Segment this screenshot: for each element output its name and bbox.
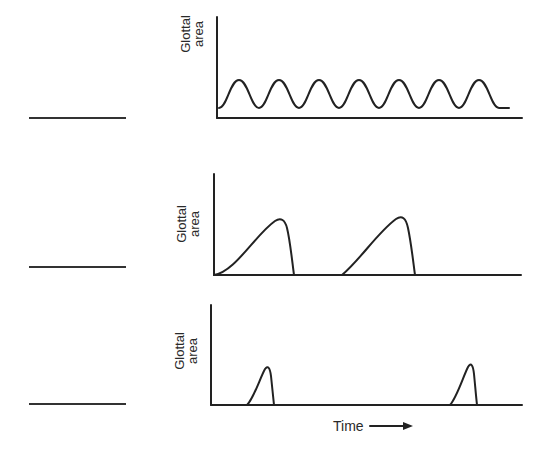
- x-axis-label: Time: [333, 418, 364, 434]
- panel-2-axes: [214, 174, 521, 275]
- panel-2-pulse-1: [214, 219, 294, 275]
- ylabel-line2: area: [188, 189, 201, 259]
- panel-1-ylabel: Glottal area: [179, 0, 207, 69]
- answer-blank-line-1[interactable]: [29, 117, 126, 119]
- panel-3-pulse-2: [450, 365, 477, 405]
- panel-1-axes: [217, 17, 522, 118]
- glottal-waveform-figure: [0, 0, 555, 455]
- panel-3-ylabel: Glottal area: [173, 316, 201, 386]
- panel-3-pulse-1: [247, 367, 274, 405]
- panel-2-pulse-2: [342, 217, 415, 275]
- panel-2-ylabel: Glottal area: [175, 189, 203, 259]
- panel-1-sinusoid-waveform: [219, 80, 509, 108]
- answer-blank-line-2[interactable]: [29, 266, 126, 268]
- answer-blank-line-3[interactable]: [29, 403, 126, 405]
- ylabel-line2: area: [186, 316, 199, 386]
- time-arrow-icon: [370, 422, 413, 430]
- ylabel-line2: area: [192, 0, 205, 69]
